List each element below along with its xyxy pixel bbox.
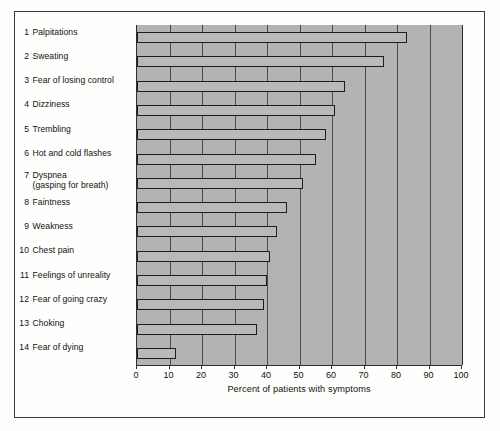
category-subtext: (gasping for breath): [33, 180, 131, 190]
category-label: 1Palpitations: [18, 27, 130, 37]
x-tick-mark: [169, 365, 170, 369]
gridline-60: [332, 25, 333, 365]
x-axis-title: Percent of patients with symptoms: [136, 384, 462, 394]
x-tick-mark: [234, 365, 235, 369]
x-tick-mark: [136, 365, 137, 369]
category-label: 3Fear of losing control: [18, 75, 130, 85]
gridline-40: [267, 25, 268, 365]
category-label: 6Hot and cold flashes: [18, 148, 130, 158]
gridline-80: [397, 25, 398, 365]
category-text: Fear of dying: [33, 342, 84, 352]
x-tick-mark: [201, 365, 202, 369]
x-tick-label: 60: [326, 370, 336, 380]
x-tick-mark: [299, 365, 300, 369]
category-label: 2Sweating: [18, 51, 130, 61]
category-number: 14: [18, 342, 29, 352]
category-text: Sweating: [33, 51, 69, 61]
category-number: 9: [18, 221, 29, 231]
bar: [137, 299, 264, 310]
category-number: 11: [18, 270, 29, 280]
category-text: Fear of going crazy: [33, 294, 108, 304]
x-tick-label: 40: [261, 370, 271, 380]
category-number: 10: [18, 245, 29, 255]
category-label: 5Trembling: [18, 124, 130, 134]
gridline-90: [430, 25, 431, 365]
category-label: 10Chest pain: [18, 245, 130, 255]
bar: [137, 251, 270, 262]
category-label: 14Fear of dying: [18, 342, 130, 352]
category-text: Choking: [33, 318, 65, 328]
category-label: 4Dizziness: [18, 99, 130, 109]
bar: [137, 226, 277, 237]
category-text: Faintness: [33, 197, 71, 207]
bar: [137, 105, 335, 116]
gridline-20: [202, 25, 203, 365]
category-text: Hot and cold flashes: [33, 148, 112, 158]
bar: [137, 56, 384, 67]
category-number: 8: [18, 197, 29, 207]
x-tick-label: 50: [293, 370, 303, 380]
x-tick-mark: [266, 365, 267, 369]
category-text: Dyspnea: [33, 170, 67, 180]
bar: [137, 202, 287, 213]
x-tick-label: 90: [423, 370, 433, 380]
bar: [137, 129, 326, 140]
category-number: 3: [18, 75, 29, 85]
x-tick-label: 20: [196, 370, 206, 380]
category-label: 12Fear of going crazy: [18, 294, 130, 304]
category-text: Fear of losing control: [33, 75, 114, 85]
category-label-column: 1Palpitations2Sweating3Fear of losing co…: [18, 24, 130, 364]
x-tick-label: 100: [453, 370, 468, 380]
category-label: 11Feelings of unreality: [18, 270, 130, 280]
category-number: 12: [18, 294, 29, 304]
category-number: 13: [18, 318, 29, 328]
x-tick-mark: [461, 365, 462, 369]
category-text: Trembling: [33, 124, 71, 134]
category-label: 8Faintness: [18, 197, 130, 207]
bar: [137, 178, 303, 189]
x-tick-label: 30: [228, 370, 238, 380]
plot-area: [136, 25, 462, 365]
gridline-30: [235, 25, 236, 365]
category-text: Chest pain: [33, 245, 75, 255]
gridline-100: [462, 25, 463, 365]
bar: [137, 154, 316, 165]
category-number: 4: [18, 99, 29, 109]
x-tick-mark: [396, 365, 397, 369]
x-tick-label: 70: [358, 370, 368, 380]
category-text: Weakness: [33, 221, 73, 231]
x-tick-label: 80: [391, 370, 401, 380]
category-number: 6: [18, 148, 29, 158]
x-tick-mark: [364, 365, 365, 369]
category-label: 7Dyspnea(gasping for breath): [18, 170, 130, 191]
gridline-10: [170, 25, 171, 365]
bar: [137, 32, 407, 43]
category-text: Dizziness: [33, 99, 70, 109]
bar: [137, 81, 345, 92]
category-label: 9Weakness: [18, 221, 130, 231]
x-tick-mark: [429, 365, 430, 369]
bar: [137, 348, 176, 359]
category-number: 1: [18, 27, 29, 37]
category-label: 13Choking: [18, 318, 130, 328]
gridline-70: [365, 25, 366, 365]
category-text: Palpitations: [33, 27, 78, 37]
bar: [137, 275, 267, 286]
gridline-50: [300, 25, 301, 365]
x-tick-label: 0: [133, 370, 138, 380]
category-number: 2: [18, 51, 29, 61]
category-number: 5: [18, 124, 29, 134]
bar: [137, 324, 257, 335]
chart-figure: 1Palpitations2Sweating3Fear of losing co…: [0, 0, 500, 431]
x-tick-label: 10: [163, 370, 173, 380]
x-tick-mark: [331, 365, 332, 369]
category-number: 7: [18, 170, 29, 180]
category-text: Feelings of unreality: [33, 270, 111, 280]
